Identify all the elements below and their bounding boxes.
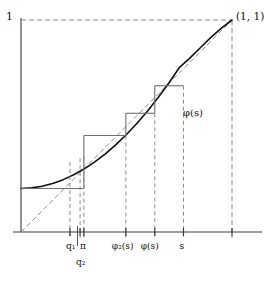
x-tick-label-q1: q₁: [66, 242, 75, 251]
cobweb-diagram: 1 (1, 1) φ(s) q₁πq₂φ₂(s)φ(s)s: [0, 0, 268, 281]
x-tick-label-phis: φ(s): [141, 242, 159, 251]
corner-point-label: (1, 1): [236, 11, 264, 22]
x-tick-label-pi: π: [80, 242, 86, 251]
curve-phi-of-s: [21, 20, 232, 189]
y-axis-max-label: 1: [6, 11, 13, 22]
x-tick-label-q2: q₂: [76, 258, 85, 267]
curve-label-phi: φ(s): [183, 108, 203, 118]
plot-canvas: [0, 0, 268, 281]
diagonal-line-dashed: [21, 20, 232, 232]
x-tick-label-s: s: [179, 242, 184, 251]
x-tick-label-phi2s: φ₂(s): [112, 242, 134, 251]
